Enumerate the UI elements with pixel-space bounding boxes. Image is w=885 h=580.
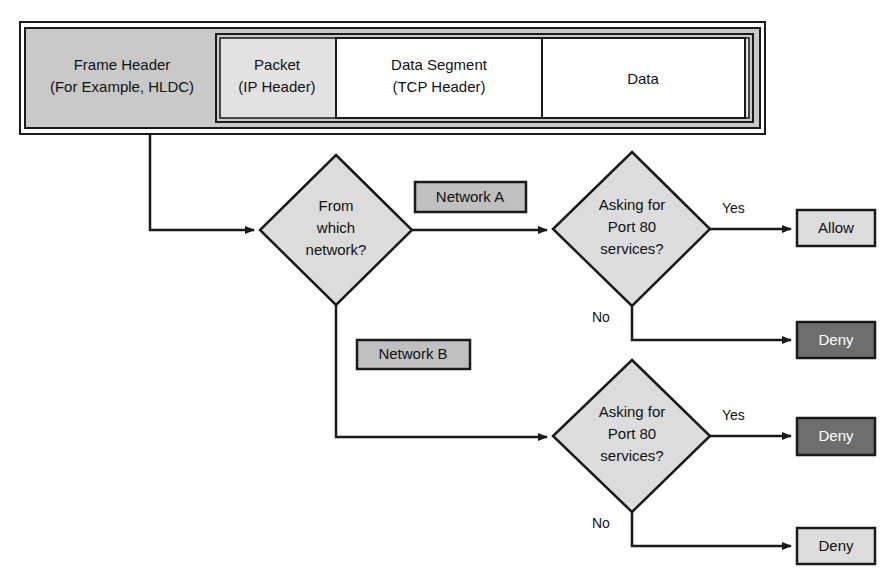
label-yes-bottom: Yes	[722, 407, 745, 423]
packet-line2: (IP Header)	[238, 78, 315, 95]
decision-port-top-line1: Asking for	[599, 196, 666, 213]
decision-network-line1: From	[319, 197, 354, 214]
decision-port-bottom: Asking for Port 80 services?	[553, 360, 710, 512]
frame-structure: Frame Header (For Example, HLDC) Packet …	[20, 22, 765, 134]
edge-no-bottom	[632, 512, 791, 546]
label-network-a-text: Network A	[436, 188, 504, 205]
label-yes-top: Yes	[722, 200, 745, 216]
label-network-b: Network B	[357, 340, 470, 369]
edge-no-top	[632, 306, 791, 340]
decision-port-top-line2: Port 80	[608, 218, 656, 235]
edge-network-b	[336, 305, 547, 437]
decision-port-top: Asking for Port 80 services?	[553, 152, 710, 306]
decision-port-bottom-line2: Port 80	[608, 425, 656, 442]
edge-frame-to-network	[150, 134, 254, 230]
decision-port-top-line3: services?	[600, 240, 663, 257]
decision-port-bottom-line1: Asking for	[599, 403, 666, 420]
result-deny-bottom: Deny	[797, 528, 875, 564]
decision-network-line2: which	[316, 219, 355, 236]
flowchart-svg: Frame Header (For Example, HLDC) Packet …	[0, 0, 885, 580]
result-deny-mid: Deny	[797, 418, 875, 455]
packet-line1: Packet	[254, 56, 301, 73]
diagram-canvas: Frame Header (For Example, HLDC) Packet …	[0, 0, 885, 580]
result-deny-top: Deny	[797, 322, 875, 358]
label-network-a: Network A	[415, 182, 526, 212]
segment-line1: Data Segment	[391, 56, 488, 73]
decision-port-bottom-line3: services?	[600, 447, 663, 464]
data-cell: Data	[627, 70, 659, 87]
label-no-top: No	[592, 309, 610, 325]
label-no-bottom: No	[592, 515, 610, 531]
frame-header-line1: Frame Header	[74, 56, 171, 73]
segment-line2: (TCP Header)	[392, 78, 485, 95]
result-deny-mid-text: Deny	[818, 427, 854, 444]
decision-network: From which network?	[260, 155, 412, 305]
result-allow-top-text: Allow	[818, 219, 854, 236]
frame-header-line2: (For Example, HLDC)	[50, 78, 194, 95]
label-network-b-text: Network B	[378, 345, 447, 362]
data-line1: Data	[627, 70, 659, 87]
result-deny-top-text: Deny	[818, 331, 854, 348]
result-allow-top: Allow	[797, 210, 875, 246]
result-deny-bottom-text: Deny	[818, 537, 854, 554]
decision-network-line3: network?	[306, 241, 367, 258]
